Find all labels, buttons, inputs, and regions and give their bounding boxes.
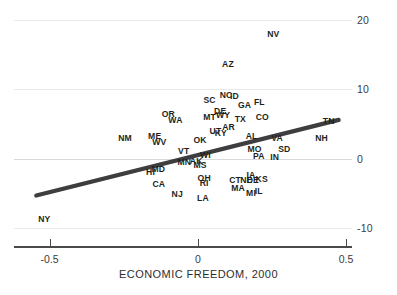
- trendline: [14, 10, 352, 245]
- data-point-fl: FL: [254, 98, 265, 107]
- data-point-al: AL: [246, 132, 258, 141]
- x-tick-label: 0: [195, 253, 201, 265]
- data-point-co: CO: [256, 113, 269, 122]
- plot-area: NVAZIDNCSCFLGADEORWYMTCOTXWATNARUTKYALME…: [14, 10, 352, 245]
- y-tick-label: -10: [357, 222, 373, 234]
- x-tick-mark: [198, 239, 199, 246]
- data-point-ca: CA: [152, 180, 165, 189]
- data-point-pa: PA: [253, 152, 265, 161]
- data-point-ga: GA: [238, 101, 251, 110]
- data-point-wa: WA: [168, 116, 182, 125]
- x-tick-label: 0.5: [339, 253, 354, 265]
- x-axis-title: ECONOMIC FREEDOM, 2000: [0, 268, 397, 280]
- data-point-sd: SD: [278, 145, 290, 154]
- x-tick-mark: [346, 239, 347, 246]
- data-point-la: LA: [197, 193, 209, 202]
- data-point-tx: TX: [235, 115, 246, 124]
- data-point-mn: MN: [177, 158, 191, 167]
- data-point-ri: RI: [200, 179, 209, 188]
- x-tick-label: -0.5: [41, 253, 59, 265]
- y-tick-label: 10: [357, 83, 369, 95]
- data-point-de2: DE: [247, 175, 259, 184]
- data-point-nj: NJ: [172, 190, 183, 199]
- data-point-wv: WV: [152, 138, 166, 147]
- data-point-vt: VT: [178, 147, 189, 156]
- data-point-in: IN: [270, 153, 279, 162]
- data-point-il: IL: [255, 187, 263, 196]
- data-point-ky: KY: [215, 128, 227, 137]
- data-point-ma: MA: [231, 184, 245, 193]
- data-point-ms: MS: [193, 161, 206, 170]
- data-point-hi: HI: [146, 168, 155, 177]
- data-point-ny: NY: [38, 215, 50, 224]
- data-point-tn: TN: [323, 117, 335, 126]
- data-point-wy: WY: [216, 111, 230, 120]
- data-point-nm: NM: [118, 133, 132, 142]
- data-point-nc: NC: [220, 90, 233, 99]
- x-axis: -0.500.5: [14, 246, 352, 247]
- y-tick-label: 20: [357, 14, 369, 26]
- y-tick-label: 0: [357, 153, 363, 165]
- data-point-ok: OK: [193, 136, 206, 145]
- scatter-chart: NVAZIDNCSCFLGADEORWYMTCOTXWATNARUTKYALME…: [0, 0, 397, 295]
- data-point-nv: NV: [267, 30, 279, 39]
- data-point-az: AZ: [222, 59, 234, 68]
- data-point-nh: NH: [315, 133, 328, 142]
- x-axis-line: [14, 246, 352, 248]
- x-tick-mark: [50, 239, 51, 246]
- data-point-sc: SC: [203, 95, 215, 104]
- data-point-va: VA: [271, 133, 283, 142]
- data-point-mi: MI: [246, 189, 256, 198]
- data-point-mt: MT: [203, 112, 216, 121]
